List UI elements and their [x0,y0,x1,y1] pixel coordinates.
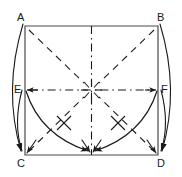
midline-creases [30,26,153,155]
vertex-label-e: E [14,84,21,95]
feed-to-d-1 [147,140,156,153]
center-crease-star [81,80,102,100]
crease-d-center [99,97,154,151]
arc-e-to-bottom-mid [26,91,88,151]
crease-b-center [99,30,154,83]
vertex-label-f: F [161,84,168,95]
diagram-canvas [0,0,182,177]
vertex-label-b: B [157,12,164,23]
star-ray-nw [84,82,89,88]
star-ray-sw [84,93,89,99]
feed-to-c-1 [27,140,36,153]
fold-diagram: A B C D E F [0,0,182,177]
star-ray-ne [94,82,99,88]
crease-c-center [29,97,84,151]
vertex-label-d: D [157,158,165,169]
crease-a-center [29,30,84,83]
vertex-label-a: A [17,12,24,23]
arc-f-to-bottom-mid [95,91,157,151]
vertex-label-c: C [17,158,25,169]
star-ray-se [94,93,99,99]
